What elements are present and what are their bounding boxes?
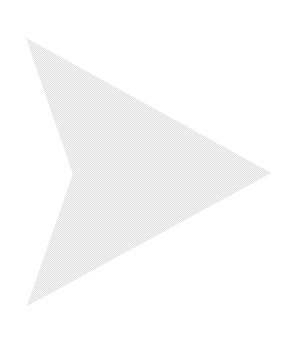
canvas-root: polygon right-pointing-arrowhead #e4e4e4… xyxy=(0,0,296,338)
arrow-shape-canvas xyxy=(0,0,296,338)
